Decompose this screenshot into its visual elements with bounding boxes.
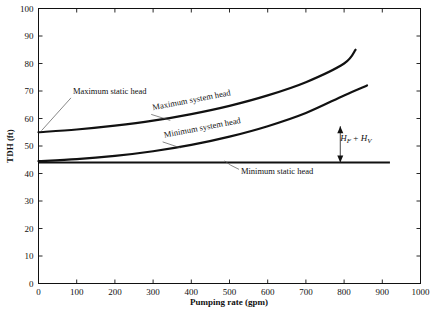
x-tick-label: 200 (108, 287, 122, 297)
y-tick-label: 50 (25, 141, 35, 151)
x-axis-tick-labels: 01002003004005006007008009001000 (36, 287, 430, 297)
y-tick-label: 60 (25, 114, 35, 124)
x-tick-label: 900 (376, 287, 390, 297)
x-tick-label: 1000 (412, 287, 431, 297)
y-tick-label: 30 (25, 196, 35, 206)
system-head-curve-chart: 01002003004005006007008009001000 0102030… (0, 0, 438, 315)
y-tick-label: 90 (25, 31, 35, 41)
x-tick-label: 400 (185, 287, 199, 297)
y-tick-label: 10 (25, 251, 35, 261)
leader-minimum-system-head (163, 142, 181, 148)
y-tick-label: 0 (29, 279, 34, 289)
x-tick-label: 700 (299, 287, 313, 297)
leader-maximum-static-head (42, 98, 71, 131)
y-tick-label: 80 (25, 59, 35, 69)
x-tick-label: 600 (261, 287, 275, 297)
y-axis-ticks (39, 9, 421, 284)
x-tick-label: 800 (337, 287, 351, 297)
y-axis-tick-labels: 0102030405060708090100 (20, 4, 34, 289)
y-tick-label: 70 (25, 86, 35, 96)
chart-container: 01002003004005006007008009001000 0102030… (0, 0, 438, 315)
x-tick-label: 300 (146, 287, 160, 297)
label-head-loss: HF + HV (339, 133, 372, 146)
y-tick-label: 40 (25, 169, 35, 179)
label-maximum-static-head: Maximum static head (73, 86, 147, 96)
plus-symbol: + (351, 133, 361, 143)
x-axis-title: Pumping rate (gpm) (190, 297, 268, 307)
x-axis-ticks (39, 9, 421, 284)
x-tick-label: 500 (223, 287, 237, 297)
x-tick-label: 0 (36, 287, 41, 297)
x-tick-label: 100 (70, 287, 84, 297)
y-axis-title: TDH (ft) (5, 129, 15, 163)
subscript-v: V (367, 137, 372, 145)
plot-frame (39, 9, 421, 284)
y-tick-label: 20 (25, 224, 35, 234)
y-tick-label: 100 (20, 4, 34, 14)
label-minimum-static-head: Minimum static head (241, 166, 314, 176)
